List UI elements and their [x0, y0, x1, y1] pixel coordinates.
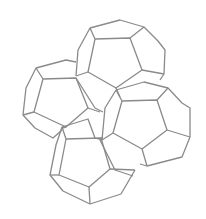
edge-line: [88, 28, 142, 88]
edge-line: [167, 130, 190, 137]
dodecahedron-bottom: [50, 119, 135, 204]
dodecahedron-right: [102, 82, 190, 166]
edge-line: [157, 88, 168, 100]
edge-line: [130, 27, 144, 38]
dodecahedron-top: [76, 20, 165, 97]
edge-line: [116, 82, 190, 166]
edge-line: [142, 70, 164, 74]
edge-line: [76, 28, 90, 76]
edge-line: [62, 119, 95, 138]
edge-line: [34, 68, 88, 127]
edge-line: [100, 140, 133, 176]
edge-line: [101, 137, 103, 138]
edge-line: [90, 20, 165, 80]
edge-line: [76, 78, 103, 112]
edge-line: [23, 112, 34, 115]
dodecahedra-diagram: [0, 0, 206, 219]
connecting-edges: [76, 78, 133, 176]
edge-line: [102, 133, 113, 140]
edge-line: [102, 90, 116, 140]
edge-line: [89, 187, 90, 204]
edge-line: [142, 149, 147, 166]
edge-line: [110, 169, 135, 170]
edge-line: [36, 60, 76, 68]
edge-line: [76, 72, 88, 76]
